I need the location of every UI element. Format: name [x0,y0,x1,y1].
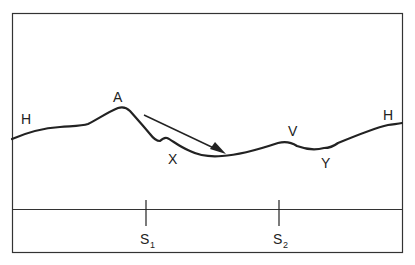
terrain-profile-curve [12,107,402,156]
label-Y: Y [321,155,331,171]
label-H-right: H [383,107,393,123]
svg-text:2: 2 [283,240,288,250]
label-A: A [113,89,123,105]
label-H-left: H [21,111,31,127]
terrain-diagram: H A X V Y H S 1 S 2 [0,0,415,265]
svg-text:S: S [273,231,282,247]
station-label-s2: S 2 [273,231,288,250]
station-label-s1: S 1 [140,231,155,250]
diagram-frame [13,14,403,253]
svg-text:1: 1 [150,240,155,250]
svg-text:S: S [140,231,149,247]
label-V: V [288,123,298,139]
label-X: X [168,151,178,167]
